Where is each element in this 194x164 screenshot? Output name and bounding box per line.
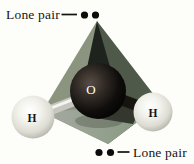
- oxygen-atom-sphere: [70, 63, 126, 119]
- top-lone-pair-dot-1: [81, 11, 88, 18]
- hydrogen-left-label: H: [28, 112, 37, 124]
- top-lone-pair-dot-2: [92, 11, 99, 18]
- molecular-geometry-figure: O H H Lone pair Lone pair: [0, 0, 194, 164]
- hydrogen-right-label: H: [149, 107, 158, 119]
- top-lone-pair-label: Lone pair: [6, 7, 60, 22]
- bottom-lone-pair-label: Lone pair: [133, 145, 187, 160]
- bottom-lone-pair-dot-2: [107, 149, 114, 156]
- bottom-lone-pair-dot-1: [95, 149, 102, 156]
- oxygen-atom-label: O: [86, 82, 95, 97]
- water-tetrahedron-diagram: O H H Lone pair Lone pair: [0, 0, 194, 164]
